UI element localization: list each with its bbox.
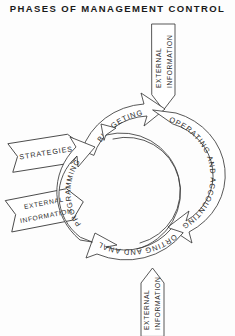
input-arrow-external-information-bottom-line2: INFORMATION	[154, 277, 161, 330]
cycle-phase-budgeting: BUDGETING	[82, 93, 165, 155]
input-arrow-external-information-top-line2: INFORMATION	[166, 35, 173, 88]
cycle-phase-operating-and-accounting: OPERATING AND ACCOUNTING	[153, 110, 225, 243]
input-arrow-external-information-bottom-line1: EXTERNAL	[143, 290, 150, 330]
input-arrow-external-information-bottom: EXTERNAL INFORMATION	[141, 268, 164, 336]
management-control-cycle-diagram: EXTERNAL INFORMATION STRATEGIES EXTERNAL…	[0, 0, 235, 336]
cycle-feedback-arrow	[101, 124, 181, 249]
input-arrow-external-information-top-line1: EXTERNAL	[155, 48, 162, 88]
input-arrow-external-information-top: EXTERNAL INFORMATION	[152, 24, 175, 110]
